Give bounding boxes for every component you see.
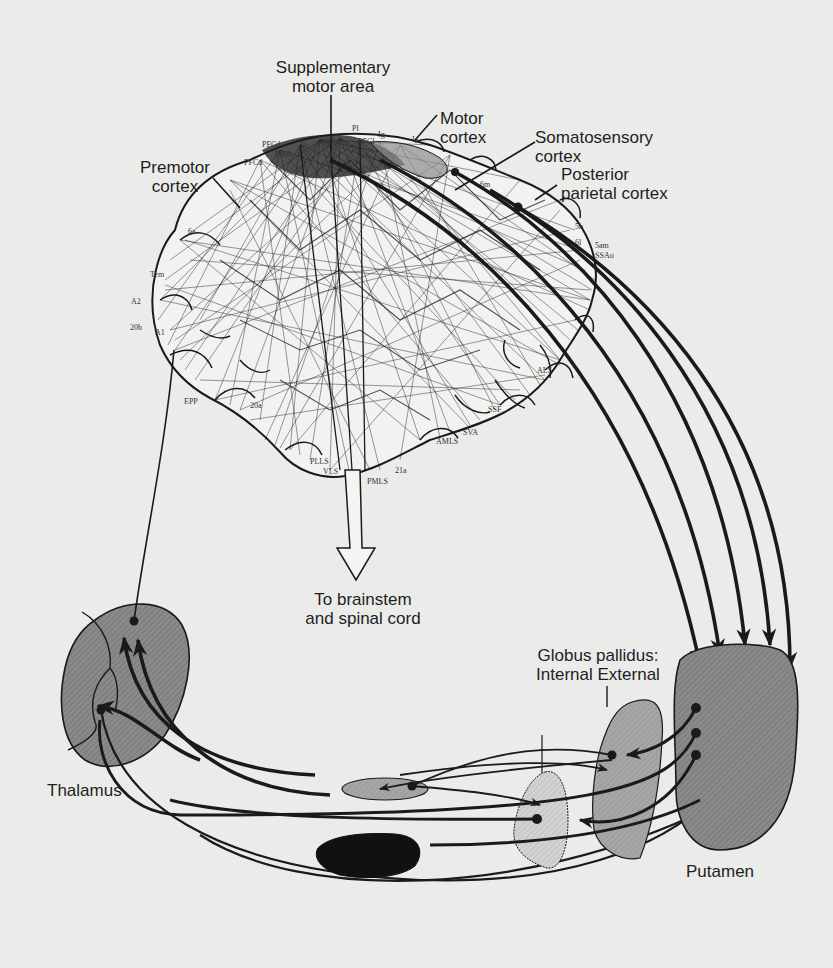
putamen: [674, 644, 798, 850]
label-thalamus: Thalamus: [47, 781, 122, 800]
cortical-area-label: Pl: [352, 124, 359, 133]
cortical-area-label: SSF: [488, 405, 501, 414]
substantia-nigra: [316, 834, 420, 878]
cortical-area-label: 6m: [480, 180, 490, 189]
label-putamen: Putamen: [686, 862, 754, 881]
globus-pallidus-external: [593, 700, 663, 859]
label-supplementary-motor-area: Supplementary motor area: [268, 58, 398, 96]
label-to-brainstem: To brainstem and spinal cord: [298, 590, 428, 628]
subthalamic-nucleus: [342, 778, 428, 800]
cortical-area-label: 6l: [575, 238, 581, 247]
label-globus-pallidus: Globus pallidus: Internal External: [528, 646, 668, 684]
cortical-area-label: EPP: [184, 397, 198, 406]
cortical-area-label: PLLS: [310, 457, 329, 466]
cortical-area-label: 6a: [188, 227, 196, 236]
cortical-area-label: Ig: [378, 130, 385, 139]
cortical-area-label: PsbR: [275, 150, 292, 159]
cortical-area-label: 20a: [250, 401, 262, 410]
cortical-area-label: A1: [155, 328, 165, 337]
cortical-area-label: PFCd: [262, 140, 280, 149]
cortical-area-label: SVA: [463, 428, 478, 437]
cortical-area-label: Hipp: [318, 135, 334, 144]
label-motor-cortex: Motor cortex: [440, 109, 486, 147]
brainstem-output-arrow: [337, 470, 375, 580]
cortical-area-label: ALS: [537, 366, 552, 375]
cortical-area-label: PMLS: [367, 477, 388, 486]
cortical-area-label: A2: [131, 297, 141, 306]
label-posterior-parietal-cortex: Posterior parietal cortex: [561, 165, 668, 203]
cortical-area-label: Tem: [150, 270, 164, 279]
cortical-area-label: 20b: [130, 323, 142, 332]
basal-ganglia-loop-diagram: [0, 0, 833, 968]
cortical-area-label: Sh: [300, 141, 308, 150]
label-premotor-cortex: Premotor cortex: [130, 158, 220, 196]
cortical-area-label: 5am: [595, 241, 609, 250]
cortical-area-label: AMLS: [436, 437, 458, 446]
cortical-area-label: PFCl: [358, 137, 374, 146]
cortical-area-label: 5b: [575, 222, 583, 231]
cortical-area-label: Ia: [412, 135, 418, 144]
thalamus: [62, 350, 190, 766]
diagram-stage: Supplementary motor area Motor cortex So…: [0, 0, 833, 968]
label-somatosensory-cortex: Somatosensory cortex: [535, 128, 653, 166]
cortical-area-label: SSAo: [595, 251, 614, 260]
cortical-area-label: 21a: [395, 466, 407, 475]
cortical-area-label: PFCd: [244, 158, 262, 167]
cortical-area-label: VLS: [323, 467, 338, 476]
